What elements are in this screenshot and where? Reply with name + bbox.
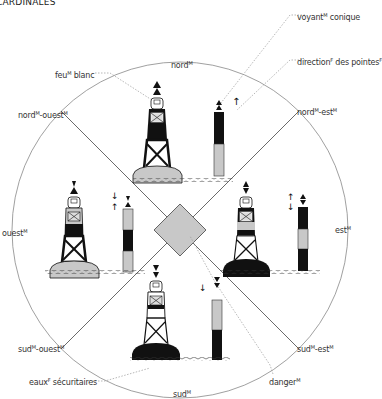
label-eaux-securitaires: eauxF sécuritaires xyxy=(29,375,97,388)
topmark-cone-up xyxy=(70,187,78,194)
label-sud-ouest: sudM-ouestM xyxy=(18,342,64,355)
buoy-south: ↓ xyxy=(130,265,230,361)
topmark-cone-down xyxy=(243,188,249,194)
label-voyant-conique: voyantM conique xyxy=(297,10,360,23)
topmark-cone-up xyxy=(243,181,249,187)
leader-feu-blanc xyxy=(95,73,155,102)
topmark-cone-down xyxy=(153,272,159,278)
arrow-up-icon: ↑ xyxy=(232,96,240,107)
label-nord: nordM xyxy=(171,58,193,71)
leader-lines xyxy=(92,15,305,381)
label-direction-pointes: directionF des pointesF xyxy=(297,55,382,68)
label-est: estM xyxy=(335,223,351,236)
arrow-up-icon: ↑ xyxy=(287,192,295,202)
leader-voyant-conique xyxy=(217,15,305,108)
label-sud-est: sudM-estM xyxy=(297,342,333,355)
label-feu-blanc: feuM blanc xyxy=(55,68,94,81)
buoy-west: ↓ ↑ xyxy=(45,181,145,278)
leader-eaux-securitaires xyxy=(92,368,150,381)
label-danger: dangerM xyxy=(269,375,300,388)
topmark-cone-down xyxy=(72,181,76,187)
buoy-north: ↑ xyxy=(133,81,240,183)
label-ouest: ouestM xyxy=(2,226,27,239)
topmark-cone-up xyxy=(153,88,161,95)
buoy-east: ↑ ↓ xyxy=(220,181,320,277)
label-nord-est: nordM-estM xyxy=(297,105,337,118)
label-sud: sudM xyxy=(173,387,191,399)
leader-direction-pointes xyxy=(237,60,305,110)
arrow-down-icon: ↓ xyxy=(111,191,119,201)
topmark-cone-down xyxy=(153,265,159,271)
topmark-cone-up xyxy=(153,81,161,88)
leader-danger xyxy=(190,236,273,374)
label-nord-ouest: nordM-ouestM xyxy=(18,108,68,121)
arrow-down-icon: ↓ xyxy=(199,283,207,293)
arrow-down-icon: ↓ xyxy=(287,202,295,212)
arrow-up-icon: ↑ xyxy=(111,202,119,212)
